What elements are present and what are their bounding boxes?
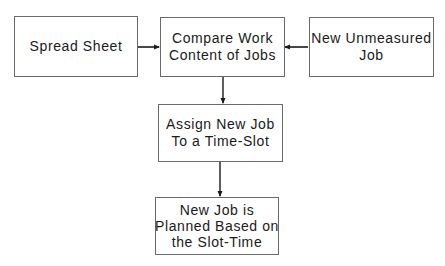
node-label: Compare Work (172, 30, 273, 47)
node-label: the Slot-Time (172, 234, 263, 250)
node-label: New Job is (180, 202, 254, 218)
node-label: Spread Sheet (30, 38, 123, 55)
node-job-planned: New Job is Planned Based on the Slot-Tim… (155, 197, 279, 255)
node-label: New Unmeasured (311, 30, 431, 47)
node-label: Job (359, 47, 383, 64)
node-new-unmeasured-job: New Unmeasured Job (309, 17, 434, 77)
node-compare-work-content: Compare Work Content of Jobs (160, 17, 285, 77)
node-label: To a Time-Slot (172, 133, 270, 150)
node-spread-sheet: Spread Sheet (14, 16, 138, 77)
node-assign-time-slot: Assign New Job To a Time-Slot (158, 104, 283, 162)
node-label: Content of Jobs (169, 47, 276, 64)
node-label: Assign New Job (166, 116, 275, 133)
node-label: Planned Based on (155, 218, 279, 234)
